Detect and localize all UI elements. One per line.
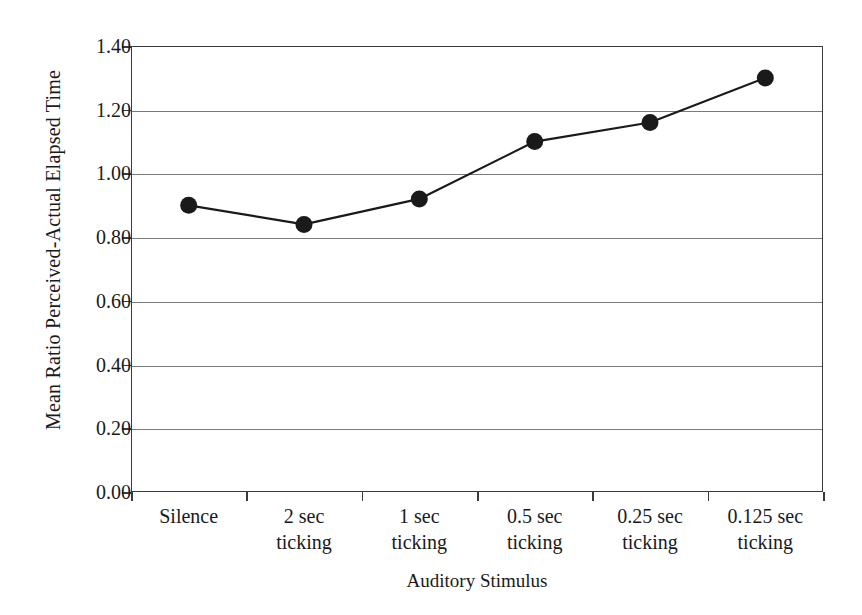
x-tick-mark [823, 492, 825, 501]
x-tick-mark [246, 492, 248, 501]
x-tick-mark [708, 492, 710, 501]
x-axis-ticks: Silence2 secticking1 secticking0.5 secti… [0, 0, 862, 615]
x-tick-label: 0.125 secticking [690, 503, 840, 555]
x-tick-label-line1: 2 sec [284, 505, 325, 527]
x-tick-mark [362, 492, 364, 501]
x-tick-label-line1: 0.5 sec [507, 505, 563, 527]
x-axis-title: Auditory Stimulus [131, 570, 823, 592]
x-tick-mark [592, 492, 594, 501]
x-tick-label-line1: Silence [159, 505, 218, 527]
x-tick-mark [131, 492, 133, 501]
x-tick-mark [477, 492, 479, 501]
x-tick-label-line2: ticking [690, 529, 840, 555]
x-tick-label-line1: 1 sec [399, 505, 440, 527]
x-tick-label-line1: 0.125 sec [728, 505, 804, 527]
x-tick-label-line1: 0.25 sec [617, 505, 683, 527]
chart-figure: Mean Ratio Perceived-Actual Elapsed Time… [0, 0, 862, 615]
